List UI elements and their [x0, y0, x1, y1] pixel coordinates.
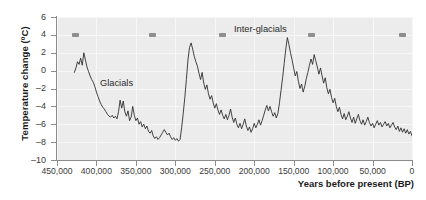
y-tick [51, 160, 56, 161]
interglacial-marker-1 [72, 33, 79, 37]
y-tick-label: 4 [6, 30, 46, 39]
y-tick [51, 53, 56, 54]
y-tick [51, 17, 56, 18]
x-axis-line [56, 160, 413, 161]
y-tick-label: –4 [6, 102, 46, 111]
x-tick-label: 0 [382, 167, 426, 176]
y-tick [51, 35, 56, 36]
temperature-line [57, 17, 412, 160]
interglacial-marker-3 [219, 33, 226, 37]
interglacial-marker-4 [308, 33, 315, 37]
y-tick [51, 124, 56, 125]
x-axis-title: Years before present (BP) [0, 178, 426, 189]
y-tick [51, 106, 56, 107]
gridline-vertical [412, 17, 413, 160]
interglacial-marker-2 [149, 33, 156, 37]
y-tick-label: –6 [6, 120, 46, 129]
y-tick [51, 89, 56, 90]
y-tick-label: –8 [6, 138, 46, 147]
interglacials-label: Inter-glacials [234, 24, 287, 34]
y-tick-label: 2 [6, 48, 46, 57]
y-tick [51, 142, 56, 143]
y-tick [51, 71, 56, 72]
climate-temperature-chart: Temperature change (ºC) GlacialsInter-gl… [0, 0, 426, 200]
y-tick-label: –10 [6, 156, 46, 165]
y-tick-label: –2 [6, 84, 46, 93]
y-tick-label: 6 [6, 13, 46, 22]
glacials-label: Glacials [100, 78, 133, 88]
y-tick-label: 0 [6, 66, 46, 75]
interglacial-marker-5 [399, 33, 406, 37]
